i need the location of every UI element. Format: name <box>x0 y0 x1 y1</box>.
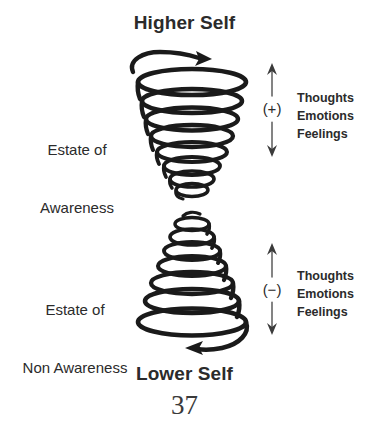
label-estate-of-awareness-line1: Estate of <box>2 140 152 159</box>
page-title-higher-self: Higher Self <box>0 12 369 34</box>
label-estate-of-awareness: Estate of Awareness <box>2 102 152 256</box>
lower-spiral-coil <box>138 212 247 349</box>
label-estate-of-awareness-line2: Awareness <box>2 198 152 217</box>
negative-thoughts-emotions-feelings: Thoughts Emotions Feelings <box>297 268 354 321</box>
positive-thoughts-emotions-feelings: Thoughts Emotions Feelings <box>297 90 354 143</box>
negative-sign: (−) <box>255 281 289 299</box>
page-title-lower-self: Lower Self <box>0 363 369 385</box>
label-estate-of-non-awareness-line1: Estate of <box>0 300 150 319</box>
page-number: 37 <box>0 390 369 422</box>
positive-sign: (+) <box>255 100 289 118</box>
diagram-page: Higher Self Estate of Awareness Estate o… <box>0 0 369 434</box>
